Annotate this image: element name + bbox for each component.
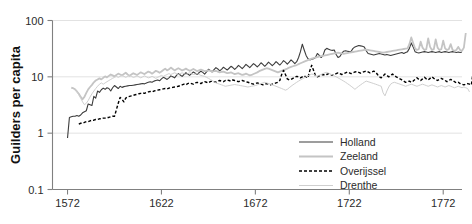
y-tick-label-100: 100	[25, 15, 43, 27]
line-chart: 1001010.1 15721622167217221772 Guilders …	[0, 0, 472, 224]
x-tick-label-1572: 1572	[55, 197, 79, 209]
y-tick-label-1: 1	[37, 127, 43, 139]
series-group	[68, 33, 472, 138]
legend-label-overijssel: Overijssel	[340, 165, 386, 177]
legend-label-zeeland: Zeeland	[340, 150, 378, 162]
legend-label-drenthe: Drenthe	[340, 179, 378, 191]
chart-page: 1001010.1 15721622167217221772 Guilders …	[0, 0, 472, 224]
grid-lines	[53, 21, 463, 190]
series-line-holland	[68, 43, 462, 138]
legend-label-holland: Holland	[340, 136, 376, 148]
y-axis: 1001010.1	[25, 15, 52, 196]
x-tick-label-1622: 1622	[149, 197, 173, 209]
x-axis: 15721622167217221772	[53, 190, 463, 209]
x-tick-label-1722: 1722	[337, 197, 361, 209]
y-axis-title: Guilders per capita	[8, 45, 23, 164]
y-tick-label-0.1: 0.1	[28, 184, 43, 196]
y-tick-label-10: 10	[31, 71, 43, 83]
x-tick-label-1672: 1672	[243, 197, 267, 209]
x-tick-label-1772: 1772	[431, 197, 455, 209]
series-line-zeeland	[71, 33, 465, 99]
legend: HollandZeelandOverijsselDrenthe	[299, 136, 386, 192]
